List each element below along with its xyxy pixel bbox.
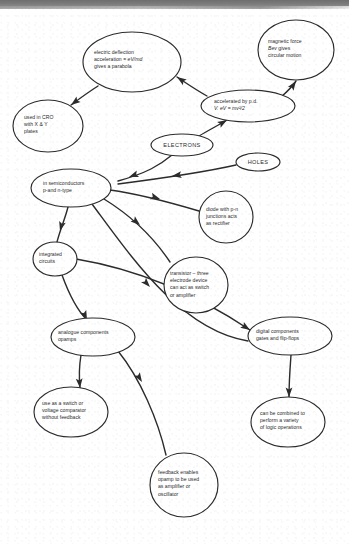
- edge-integrated-to-analogue: [62, 275, 90, 321]
- node-holes[interactable]: HOLES: [236, 153, 280, 171]
- node-text-line: feedback enables: [158, 469, 199, 475]
- node-text-line: without feedback: [42, 414, 81, 420]
- node-text-line: accelerated by p.d.: [214, 98, 257, 104]
- edge-semiconductors-to-transistor: [104, 199, 170, 262]
- nodes-layer: electric deflectionacceleration = eV/mdg…: [13, 20, 334, 517]
- node-text-line: p-and n-type: [43, 187, 72, 193]
- diagram-page: electric deflectionacceleration = eV/mdg…: [0, 0, 349, 544]
- node-text-line: can be combined to: [260, 410, 305, 416]
- node-text-line: of logic operations: [260, 424, 302, 430]
- node-text-line: gives a parabola: [94, 63, 132, 69]
- node-magnetic-force[interactable]: magnetic forceBev givescircular motion: [258, 20, 334, 80]
- node-used-in-cro[interactable]: used in CROwith X & Yplates: [13, 100, 83, 152]
- node-accelerated-by-pd[interactable]: accelerated by p.d.V. eV = mv²/2: [201, 90, 295, 122]
- edge-semiconductors-to-diode: [110, 190, 199, 211]
- node-diode[interactable]: diode with p-njunctions actsas rectifier: [199, 191, 253, 243]
- arrow-head: [175, 74, 187, 85]
- node-text-line: acceleration = eV/md: [94, 56, 143, 62]
- node-text-line: junctions acts: [205, 213, 238, 219]
- node-text-line: oscillator: [158, 491, 179, 497]
- node-digital-components[interactable]: digital componentsgates and flip-flops: [248, 317, 332, 355]
- node-text-line: in semiconductors: [43, 180, 85, 186]
- edge-analogue-to-feedback: [118, 351, 166, 455]
- node-text-line: HOLES: [248, 159, 269, 165]
- node-text-line: circular motion: [268, 52, 302, 58]
- node-text-line: transistor – three: [170, 270, 209, 276]
- node-text-line: diode with p-n: [206, 206, 238, 212]
- concept-map-diagram: electric deflectionacceleration = eV/mdg…: [0, 0, 349, 544]
- node-in-semiconductors[interactable]: in semiconductorsp-and n-type: [31, 169, 111, 207]
- node-logic-operations[interactable]: can be combined toperform a varietyof lo…: [251, 397, 325, 447]
- node-use-as-switch[interactable]: use as a switch orvoltage comparatorwith…: [34, 387, 108, 437]
- edge-accelerated-to-electric-deflection: [175, 74, 207, 96]
- node-text-line: voltage comparator: [42, 407, 86, 413]
- node-integrated-circuits[interactable]: integratedcircuits: [33, 242, 77, 276]
- node-text-line: opamp to be used: [158, 476, 199, 482]
- node-text-line: opamps: [58, 336, 77, 342]
- node-text-line: ELECTRONS: [163, 142, 200, 148]
- node-text-line: electric deflection: [94, 49, 134, 55]
- node-text-line: V. eV = mv²/2: [214, 105, 245, 111]
- node-feedback-opamp[interactable]: feedback enablesopamp to be usedas ampli…: [150, 453, 218, 517]
- node-text-line: used in CRO: [24, 114, 53, 120]
- edge-accelerated-to-magnetic-force: [281, 79, 299, 97]
- edge-digital-to-logic: [286, 355, 293, 397]
- node-text-line: integrated: [39, 251, 62, 257]
- node-electric-deflection[interactable]: electric deflectionacceleration = eV/mdg…: [83, 32, 181, 92]
- node-analogue-components[interactable]: analogue componentsopamps: [51, 318, 135, 356]
- node-text-line: can act as switch: [170, 284, 209, 290]
- node-text-line: electrode device: [170, 277, 208, 283]
- edge-semiconductors-to-integrated: [57, 207, 68, 242]
- node-text-line: analogue components: [58, 329, 109, 335]
- edge-analogue-to-switch: [76, 355, 84, 388]
- node-text-line: magnetic force: [268, 38, 302, 44]
- node-text-line: or amplifier: [170, 292, 196, 298]
- node-transistor[interactable]: transistor – threeelectrode devicecan ac…: [164, 257, 228, 313]
- node-text-line: gates and flip-flops: [256, 335, 300, 341]
- node-text-line: plates: [24, 128, 38, 134]
- node-electrons[interactable]: ELECTRONS: [151, 134, 213, 156]
- node-text-line: Bev gives: [268, 45, 291, 51]
- arrow-head: [131, 216, 143, 227]
- node-text-line: use as a switch or: [42, 400, 83, 406]
- node-text-line: with X & Y: [24, 121, 48, 127]
- edge-electric-deflection-to-cro: [69, 86, 98, 108]
- node-text-line: digital components: [256, 328, 299, 334]
- node-text-line: perform a variety: [260, 417, 299, 423]
- node-text-line: as amplifier or: [158, 483, 191, 489]
- node-text-line: as rectifier: [206, 220, 230, 226]
- node-text-line: circuits: [39, 258, 55, 264]
